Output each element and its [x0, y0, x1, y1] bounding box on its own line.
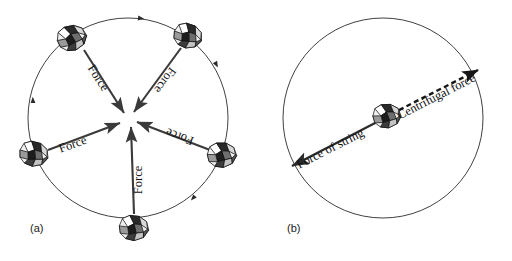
physics-figure: Force Force Force Force Force (a) Force …: [0, 0, 512, 261]
figure-canvas: Force Force Force Force Force (a) Force …: [0, 0, 512, 261]
tangent-arrow-icon: [138, 16, 145, 22]
orbit-circle-a: [28, 18, 228, 218]
force-label-bottom: Force: [131, 165, 145, 194]
tangent-arrow-icon: [30, 97, 35, 103]
force-label-top-right: Force: [151, 65, 179, 97]
panel-a-label: (a): [30, 222, 43, 234]
panel-a: Force Force Force Force Force (a): [18, 16, 238, 241]
tangent-arrow-icon: [189, 194, 197, 202]
panel-b-label: (b): [287, 222, 300, 234]
centrifugal-force-label: Centrifugal force: [395, 71, 478, 123]
rock-top-left: [54, 21, 90, 54]
force-label-left: Force: [57, 133, 89, 156]
force-label-right: Force: [163, 125, 195, 148]
rock-top-right: [171, 21, 204, 51]
force-of-string-label: Force of string: [294, 125, 367, 171]
rock-left: [18, 140, 50, 168]
panel-b: Force of string Centrifugal force (b): [283, 18, 483, 234]
force-vectors-a: [48, 48, 210, 214]
rock-right: [206, 141, 238, 169]
rock-bottom: [119, 215, 148, 240]
